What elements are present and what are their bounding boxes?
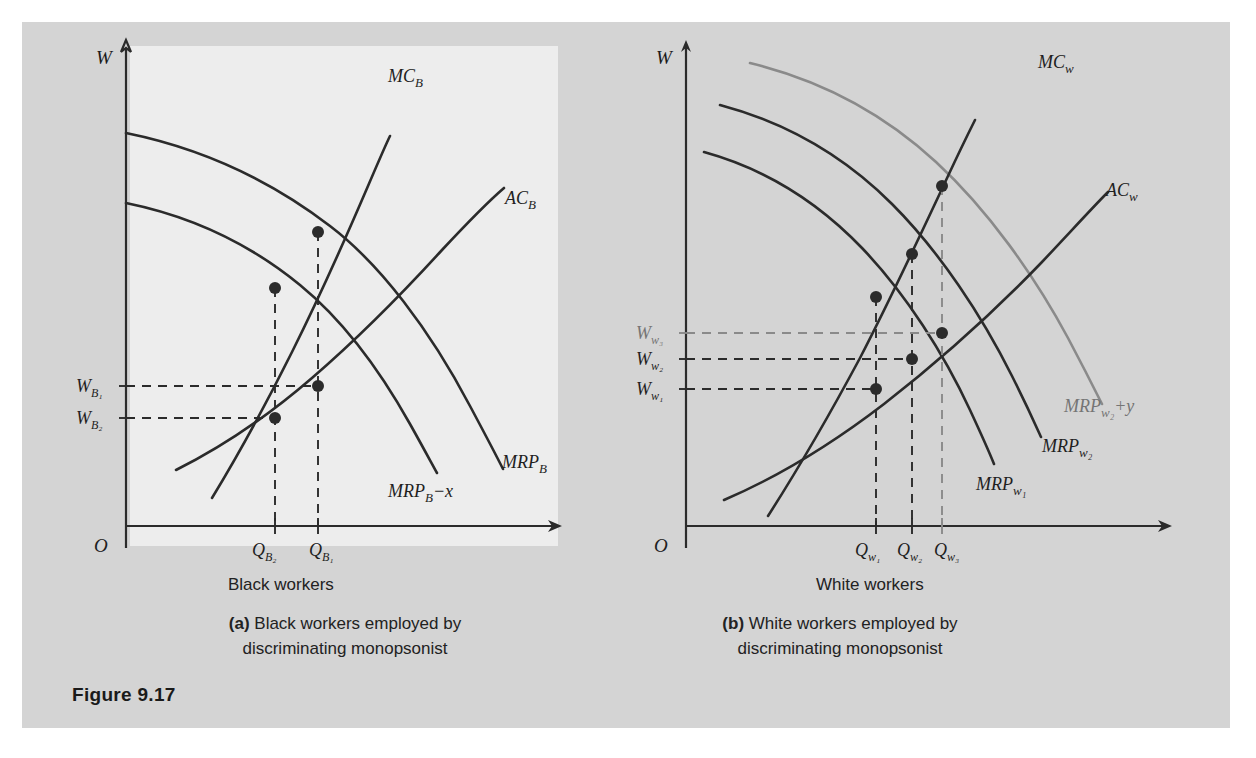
panel-a-curves (126, 133, 504, 498)
panel-a-y-axis-label: W (96, 47, 114, 68)
figure-caption: Figure 9.17 (72, 684, 176, 706)
curve-mc-b (212, 136, 390, 498)
panel-b-axes: W O (654, 40, 1172, 556)
tick-label-q-w3: Qw₃ (934, 540, 959, 564)
tick-label-w-w2: Ww₂ (636, 349, 663, 373)
subcaption-a-tag: (a) (229, 614, 250, 633)
label-mrp-w2: MRPw₂ (1041, 436, 1093, 460)
node-wage-b2-on-ac (269, 412, 281, 424)
curve-mrp-w1 (704, 152, 994, 464)
node-equilibrium-b1 (312, 226, 324, 238)
label-mrp-b: MRPB (501, 452, 547, 476)
curve-mrp-w2-plus-y (750, 63, 1102, 404)
node-equilibrium-w3 (936, 180, 948, 192)
tick-label-q-b2: QB₂ (252, 540, 277, 564)
panel-b-y-axis-label: W (656, 47, 674, 68)
node-wage-w2-on-ac (906, 353, 918, 365)
figure-root: W O (0, 0, 1256, 758)
panel-a-x-axis-title: Black workers (228, 575, 334, 594)
tick-label-w-b1: WB₁ (76, 376, 103, 400)
node-wage-w1-on-ac (870, 383, 882, 395)
panel-a-nodes (269, 226, 324, 424)
panel-a-curve-labels: MCB ACB MRPB MRPB−x (387, 66, 547, 505)
tick-label-q-b1: QB₁ (309, 540, 334, 564)
panel-b-guides (679, 186, 942, 534)
subcaption-b-tag: (b) (722, 614, 744, 633)
curve-mc-w (768, 120, 975, 516)
subcaption-b-line1: White workers employed by (749, 614, 958, 633)
node-equilibrium-w2 (906, 248, 918, 260)
label-mc-w: MCw (1037, 52, 1074, 76)
subcaption-b-line2: discriminating monopsonist (737, 639, 942, 658)
tick-label-q-w2: Qw₂ (897, 540, 922, 564)
panel-a-axes: W O (94, 40, 562, 556)
subcaption-panel-b: (b) White workers employed by discrimina… (640, 611, 1040, 661)
subcaption-a-line2: discriminating monopsonist (242, 639, 447, 658)
panel-b-x-axis-title: White workers (816, 575, 924, 594)
tick-label-w-b2: WB₂ (76, 408, 103, 432)
label-mc-b: MCB (387, 66, 423, 90)
label-ac-w: ACw (1105, 180, 1138, 204)
node-equilibrium-b2 (269, 282, 281, 294)
label-ac-b: ACB (504, 188, 536, 212)
tick-label-w-w3: Ww₃ (636, 323, 663, 347)
node-wage-w3-on-ac (936, 327, 948, 339)
label-mrp-b-minus-x: MRPB−x (387, 481, 453, 505)
subcaption-panel-a: (a) Black workers employed by discrimina… (145, 611, 545, 661)
curve-mrp-b-minus-x (126, 203, 437, 473)
label-mrp-w2-plus-y: MRPw₂+y (1063, 396, 1134, 420)
label-mrp-w1: MRPw₁ (975, 474, 1026, 498)
panel-b-origin-label: O (654, 535, 668, 556)
panel-b-curve-labels: MCw ACw MRPw₂+y MRPw₂ MRPw₁ (975, 52, 1138, 498)
curve-ac-b (176, 188, 504, 470)
tick-label-w-w1: Ww₁ (636, 379, 663, 403)
subcaption-a-line1: Black workers employed by (254, 614, 461, 633)
node-wage-b1-on-ac (312, 380, 324, 392)
panel-a-tick-labels: WB₁ WB₂ QB₂ QB₁ Black workers (76, 376, 334, 594)
tick-label-q-w1: Qw₁ (855, 540, 880, 564)
node-equilibrium-w1 (870, 291, 882, 303)
panel-a-origin-label: O (94, 535, 108, 556)
